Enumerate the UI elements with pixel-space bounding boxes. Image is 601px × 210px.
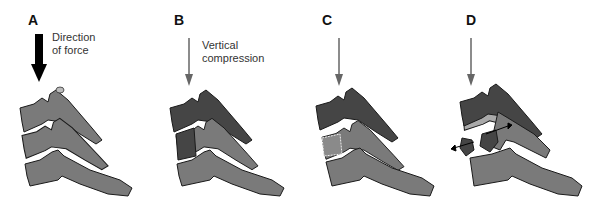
spine-diagram-a: [0, 0, 150, 210]
panel-a: A Direction of force: [0, 0, 150, 210]
panel-b: B Vertical compression: [150, 0, 300, 210]
panel-d: D: [450, 0, 600, 210]
force-arrow-icon: [31, 34, 47, 82]
compression-arrow-icon: [335, 38, 343, 86]
panel-c: C: [300, 0, 450, 210]
spine-diagram-c: [300, 0, 450, 210]
vertebrae-normal: [20, 90, 132, 196]
compression-arrow-icon: [185, 38, 193, 86]
spine-diagram-d: [450, 0, 601, 210]
spine-diagram-b: [150, 0, 300, 210]
compression-arrow-icon: [467, 38, 475, 86]
